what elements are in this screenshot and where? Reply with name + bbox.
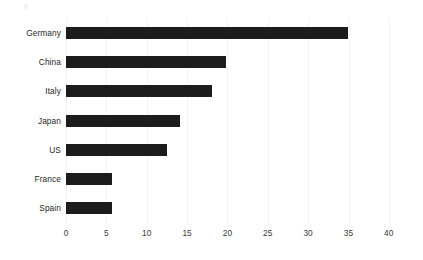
bar-row [66,194,112,223]
bar-chart: Germany China Italy Japan US France Spai… [0,0,423,260]
category-label: Spain [0,194,61,223]
bar-row [66,47,226,76]
x-tick-label: 20 [223,228,232,238]
bar-row [66,77,212,106]
category-label: US [0,135,61,164]
bar-germany [66,27,348,39]
x-tick-label: 35 [344,228,353,238]
bar-us [66,144,167,156]
category-label: China [0,47,61,76]
category-label: Italy [0,77,61,106]
bar-series [66,18,389,223]
x-tick-label: 30 [303,228,312,238]
x-tick-label: 15 [182,228,191,238]
bar-spain [66,202,112,214]
category-label: Germany [0,18,61,47]
x-tick-label: 10 [142,228,151,238]
x-tick-label: 25 [263,228,272,238]
x-tick-label: 5 [104,228,109,238]
bar-row [66,18,348,47]
category-label: Japan [0,106,61,135]
bar-china [66,56,226,68]
category-axis: Germany China Italy Japan US France Spai… [0,18,61,223]
category-label: France [0,165,61,194]
scan-artifact [24,4,28,9]
bar-row [66,106,180,135]
x-tick-label: 40 [384,228,393,238]
bar-row [66,165,112,194]
bar-france [66,173,112,185]
bar-italy [66,85,212,97]
bar-row [66,135,167,164]
bar-japan [66,115,180,127]
x-tick-label: 0 [64,228,69,238]
value-axis: 0 5 10 15 20 25 30 35 40 [0,228,423,244]
